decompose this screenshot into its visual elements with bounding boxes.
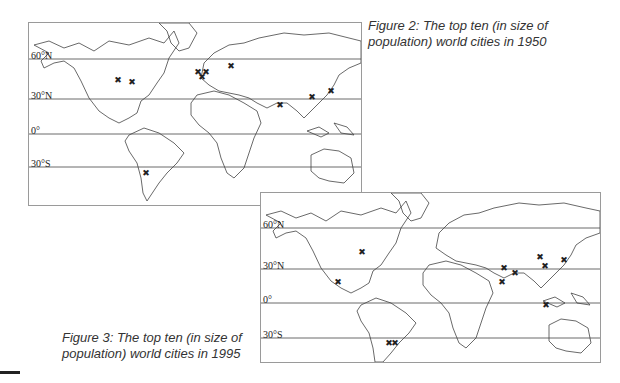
latitude-label-60n: 60°N <box>263 219 284 230</box>
city-marker-icon: ✖ <box>498 277 506 287</box>
latitude-label-0: 0° <box>31 125 40 136</box>
city-marker-icon: ✖ <box>114 75 122 85</box>
city-marker-icon: ✖ <box>542 300 550 310</box>
caption-line: population) world cities in 1950 <box>368 34 548 50</box>
latitude-label-0: 0° <box>263 294 272 305</box>
city-marker-icon: ✖ <box>327 86 335 96</box>
latitude-label-30s: 30°S <box>263 329 283 340</box>
city-marker-icon: ✖ <box>560 255 568 265</box>
caption-line: Figure 2: The top ten (in size of <box>368 18 548 34</box>
city-marker-icon: ✖ <box>202 67 210 77</box>
decorative-rule <box>0 371 20 374</box>
city-marker-icon: ✖ <box>227 61 235 71</box>
city-marker-icon: ✖ <box>334 277 342 287</box>
world-map-outline: ✖ ✖ ✖ ✖ ✖ ✖ ✖ ✖ ✖ ✖ ✖ <box>261 193 600 362</box>
caption-line: population) world cities in 1995 <box>62 346 242 362</box>
city-marker-icon: ✖ <box>511 268 519 278</box>
city-marker-icon: ✖ <box>500 263 508 273</box>
map-figure-2: ✖ ✖ ✖ ✖ ✖ ✖ ✖ ✖ ✖ ✖ 60°N 30°N 0° 30°S <box>28 22 362 206</box>
city-marker-icon: ✖ <box>391 338 399 348</box>
latitude-label-30s: 30°S <box>31 158 51 169</box>
city-marker-icon: ✖ <box>276 100 284 110</box>
city-marker-icon: ✖ <box>142 168 150 178</box>
map-figure-3: ✖ ✖ ✖ ✖ ✖ ✖ ✖ ✖ ✖ ✖ ✖ 60°N 30°N 0° 30°S <box>260 192 601 363</box>
latitude-label-60n: 60°N <box>31 50 52 61</box>
city-marker-icon: ✖ <box>128 77 136 87</box>
city-marker-icon: ✖ <box>308 92 316 102</box>
world-map-outline: ✖ ✖ ✖ ✖ ✖ ✖ ✖ ✖ ✖ ✖ <box>29 23 361 205</box>
city-marker-icon: ✖ <box>541 261 549 271</box>
figure-2-caption: Figure 2: The top ten (in size of popula… <box>368 18 548 50</box>
city-markers: ✖ ✖ ✖ ✖ ✖ ✖ ✖ ✖ ✖ ✖ <box>114 61 335 178</box>
latitude-label-30n: 30°N <box>263 260 284 271</box>
city-marker-icon: ✖ <box>358 247 366 257</box>
latitude-label-30n: 30°N <box>31 90 52 101</box>
caption-line: Figure 3: The top ten (in size of <box>62 330 242 346</box>
figure-3-caption: Figure 3: The top ten (in size of popula… <box>62 330 242 362</box>
